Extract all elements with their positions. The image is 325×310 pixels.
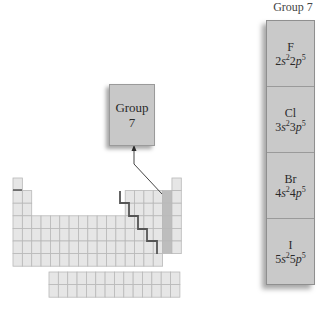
callout-line2: 7 bbox=[129, 115, 136, 130]
element-cell-br: Br 4s24p5 bbox=[267, 153, 314, 219]
element-symbol: Br bbox=[285, 172, 297, 186]
element-cell-cl: Cl 3s23p5 bbox=[267, 87, 314, 153]
electron-config: 3s23p5 bbox=[275, 120, 306, 134]
element-cell-i: I 5s25p5 bbox=[267, 219, 314, 284]
element-symbol: Cl bbox=[285, 106, 296, 120]
element-symbol: I bbox=[289, 238, 293, 252]
element-cell-f: F 2s22p5 bbox=[267, 21, 314, 87]
callout-line1: Group bbox=[115, 100, 148, 115]
electron-config: 5s25p5 bbox=[275, 252, 306, 266]
pointer-arrow bbox=[134, 164, 162, 194]
group-7-callout: Group 7 bbox=[109, 84, 155, 146]
electron-config: 4s24p5 bbox=[275, 186, 306, 200]
electron-config: 2s22p5 bbox=[275, 54, 306, 68]
group-column-header: Group 7 bbox=[263, 0, 323, 15]
element-symbol: F bbox=[287, 40, 294, 54]
group-7-column: F 2s22p5 Cl 3s23p5 Br 4s24p5 I 5s25p5 bbox=[266, 20, 315, 285]
